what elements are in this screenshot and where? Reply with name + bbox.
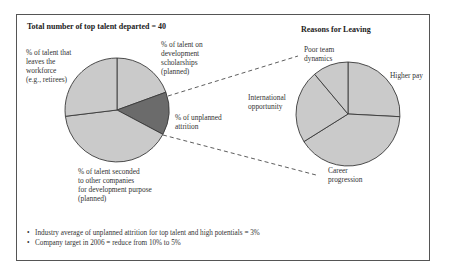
right-chart-title: Reasons for Leaving bbox=[301, 25, 371, 34]
bullet-icon: • bbox=[27, 229, 35, 239]
notes-list: •Industry average of unplanned attrition… bbox=[27, 229, 260, 248]
bullet-icon: • bbox=[27, 239, 35, 249]
label-poor-team-dynamics: Poor team dynamics bbox=[304, 45, 334, 63]
connector-line-bottom bbox=[163, 135, 316, 175]
label-unplanned-attrition: % of unplanned attrition bbox=[175, 113, 222, 131]
slice-retirees bbox=[65, 58, 117, 116]
right-pie-chart bbox=[296, 62, 400, 166]
label-seconded: % of talent seconded to other companies … bbox=[78, 167, 152, 203]
left-pie-chart bbox=[65, 58, 169, 162]
left-chart-title: Total number of top talent departed = 40 bbox=[27, 22, 166, 31]
label-higher-pay: Higher pay bbox=[390, 71, 423, 80]
note-item: •Company target in 2006 = reduce from 10… bbox=[27, 239, 260, 249]
note-item: •Industry average of unplanned attrition… bbox=[27, 229, 260, 239]
label-retirees: % of talent that leaves the workforce (e… bbox=[26, 48, 71, 84]
label-career-progression: Career progression bbox=[328, 166, 363, 184]
label-international-opportunity: International opportunity bbox=[248, 93, 286, 111]
label-scholarships: % of talent on development scholarships … bbox=[161, 40, 203, 76]
